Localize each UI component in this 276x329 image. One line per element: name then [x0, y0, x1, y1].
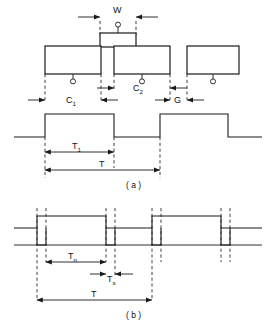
g-label: G — [174, 95, 181, 105]
c1-label: C1 — [66, 95, 77, 107]
w-label: W — [113, 5, 122, 15]
wide-pulse-train-b — [14, 216, 262, 228]
t-period-label-a: T — [99, 159, 105, 169]
caption-a: ( a ) — [126, 180, 141, 190]
right-block — [187, 46, 239, 74]
timing-diagram-svg: W — [0, 0, 276, 329]
center-block — [100, 33, 136, 47]
pulse-train-a — [14, 114, 262, 137]
panel-b-waveform: Tn Ts T — [14, 208, 262, 300]
caption-b: ( b ) — [126, 310, 141, 320]
figure-root: W — [0, 0, 276, 329]
center-block-marker-icon — [116, 22, 121, 33]
panel-a-waveform: T1 T — [14, 114, 262, 178]
narrow-spike-1 — [37, 228, 46, 245]
tn-label: Tn — [68, 251, 78, 263]
middle-block-marker-icon — [140, 74, 145, 84]
c2-label: C2 — [133, 83, 144, 95]
panel-a-geometry: W — [28, 5, 239, 107]
left-block-marker-icon — [71, 74, 76, 84]
narrow-spike-4 — [221, 228, 230, 245]
t1-label: T1 — [72, 141, 82, 153]
t-period-label-b: T — [91, 289, 97, 299]
middle-block — [114, 46, 170, 74]
right-block-marker-icon — [211, 74, 216, 84]
narrow-spike-3 — [152, 228, 161, 245]
ts-label: Ts — [107, 274, 116, 286]
left-block — [45, 46, 101, 74]
narrow-spike-2 — [106, 228, 115, 245]
